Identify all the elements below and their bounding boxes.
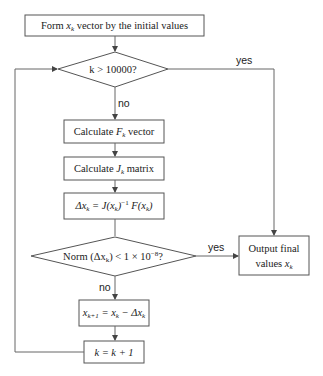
output-box: Output final values xk [239,236,309,275]
flowchart: Form xk vector by the initial values k >… [0,0,323,376]
decision-iteration-limit: k > 10000? [58,52,168,87]
svg-text:Norm (Δxk) < 1 × 10−8?: Norm (Δxk) < 1 × 10−8? [63,250,163,264]
calc-f-box: Calculate Fk vector [64,120,164,143]
svg-text:k = k + 1: k = k + 1 [94,347,133,358]
arrow-iter-yes-to-output [168,69,274,235]
svg-text:Δxk = J(xk)−1 F(xk): Δxk = J(xk)−1 F(xk) [75,199,153,213]
increment-box: k = k + 1 [84,341,144,363]
decision-norm-check: Norm (Δxk) < 1 × 10−8? [31,237,196,276]
label-norm-yes: yes [208,241,224,253]
label-iter-yes: yes [236,54,252,66]
calc-j-box: Calculate Jk matrix [64,157,164,180]
init-box: Form xk vector by the initial values [25,15,204,36]
label-norm-no: no [99,281,111,293]
update-box: xk+1 = xk − Δxk [79,300,149,326]
svg-text:k > 10000?: k > 10000? [89,64,137,75]
svg-text:Output final: Output final [248,243,299,254]
label-iter-no: no [118,97,130,109]
delta-box: Δxk = J(xk)−1 F(xk) [64,193,164,219]
